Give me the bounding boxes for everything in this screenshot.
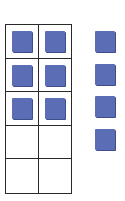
square-counter xyxy=(95,129,115,150)
ten-frame-cell xyxy=(39,92,72,126)
square-counter xyxy=(45,31,65,52)
ten-frame-cell xyxy=(39,159,72,193)
square-counter xyxy=(95,31,115,52)
square-counter xyxy=(45,98,65,119)
ten-frame-cell xyxy=(39,59,72,93)
ten-frame-cell xyxy=(6,92,39,126)
ten-frame-cell xyxy=(6,59,39,93)
ten-frame-cell xyxy=(39,25,72,59)
ten-frame xyxy=(5,24,72,194)
square-counter xyxy=(12,65,32,86)
square-counter xyxy=(45,65,65,86)
square-counter xyxy=(95,96,115,117)
square-counter xyxy=(95,64,115,85)
square-counter xyxy=(12,98,32,119)
square-counter xyxy=(12,31,32,52)
ten-frame-cell xyxy=(6,25,39,59)
ten-frame-cell xyxy=(6,126,39,160)
ten-frame-cell xyxy=(6,159,39,193)
ten-frame-cell xyxy=(39,126,72,160)
